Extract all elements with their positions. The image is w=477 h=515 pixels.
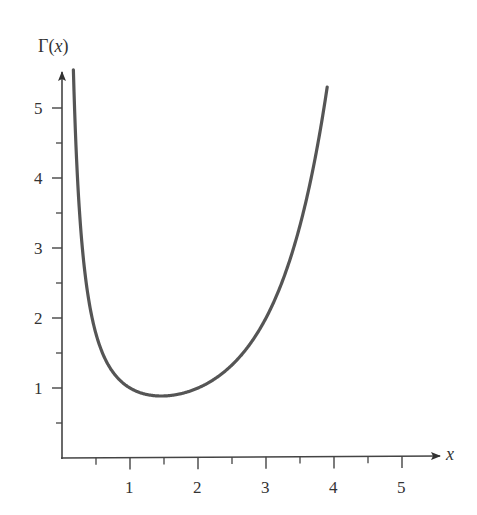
y-tick-label: 3	[34, 239, 43, 258]
y-axis-ticks: 12345	[34, 99, 62, 423]
y-axis-title-prefix: Γ(	[38, 36, 54, 57]
y-tick-label: 5	[34, 99, 43, 118]
x-tick-label: 2	[193, 478, 202, 497]
y-tick-label: 4	[34, 169, 43, 188]
y-axis-title-var: x	[53, 36, 62, 56]
svg-text:Γ(x): Γ(x)	[38, 36, 68, 57]
y-tick-label: 2	[34, 309, 43, 328]
x-tick-label: 1	[125, 478, 134, 497]
x-tick-label: 5	[397, 478, 406, 497]
x-axis-line	[61, 456, 440, 458]
x-tick-label: 3	[261, 478, 270, 497]
gamma-function-chart: Γ(x) x 12345 12345	[0, 0, 477, 515]
x-axis-title: x	[445, 444, 454, 464]
y-axis-title-suffix: )	[62, 36, 68, 57]
gamma-curve-line	[73, 70, 327, 396]
y-axis-title: Γ(x)	[38, 36, 68, 57]
x-axis-ticks: 12345	[96, 456, 406, 497]
y-tick-label: 1	[34, 379, 43, 398]
x-tick-label: 4	[329, 478, 338, 497]
